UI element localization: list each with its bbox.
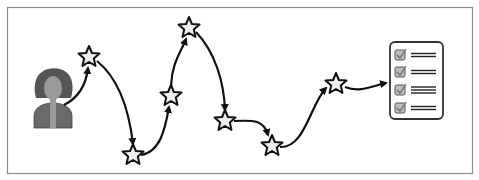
journey-diagram: [0, 0, 479, 180]
checklist-icon: [390, 42, 443, 119]
